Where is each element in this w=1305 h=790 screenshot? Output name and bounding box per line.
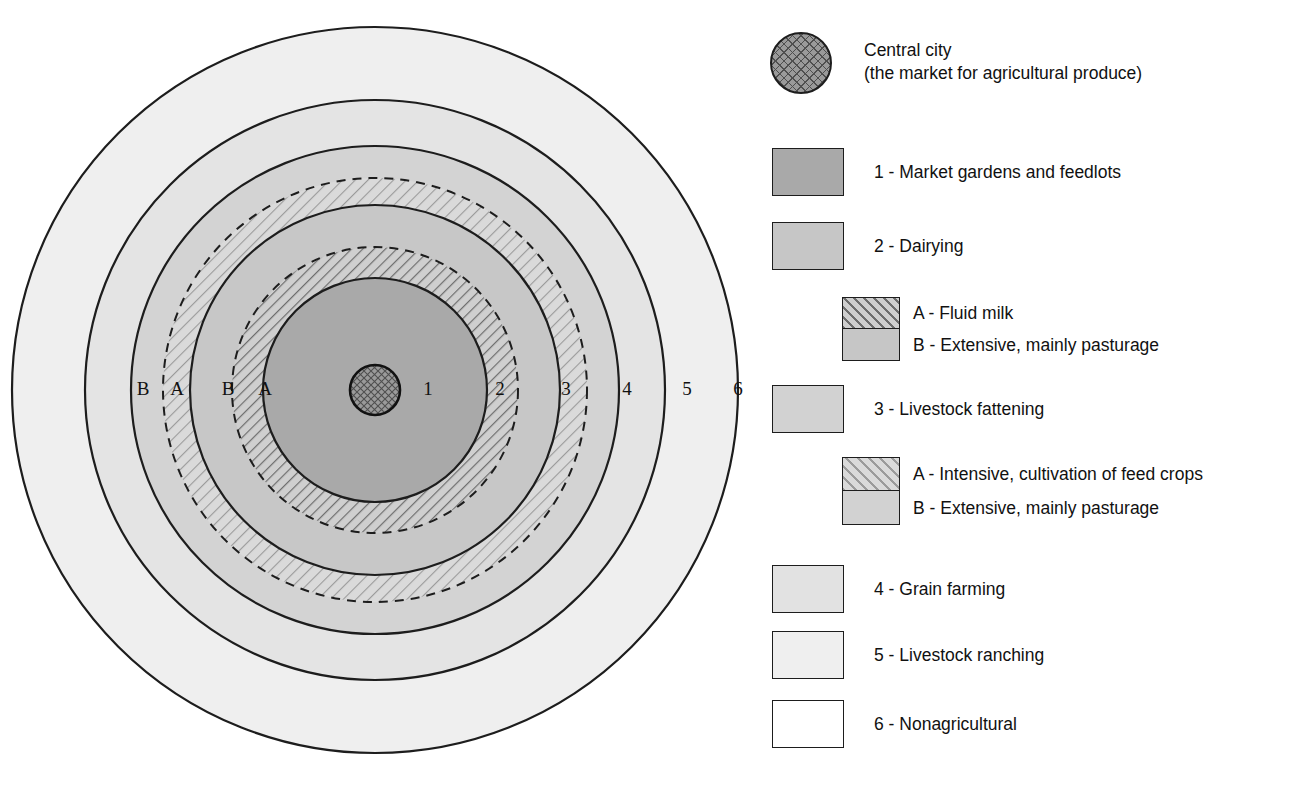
ring-label-zone3-b: B: [137, 378, 150, 399]
legend-item-zone-1: 1 - Market gardens and feedlots: [772, 148, 1121, 196]
legend-panel: Central city (the market for agricultura…: [762, 0, 1305, 790]
sub-legend-zone-3: A - Intensive, cultivation of feed crops…: [842, 457, 1203, 525]
ring-label-4: 4: [622, 378, 632, 399]
ring-label-zone2-a: A: [258, 378, 272, 399]
sub-legend-labels-zone-3: A - Intensive, cultivation of feed crops…: [913, 457, 1203, 525]
rings-svg: 1 2 3 4 5 6 A B A B: [0, 0, 745, 790]
sub-legend-swatch-zone-2-b: [843, 329, 899, 360]
legend-label-zone-1: 1 - Market gardens and feedlots: [874, 161, 1121, 184]
ring-label-1: 1: [423, 378, 433, 399]
ring-label-6: 6: [733, 378, 743, 399]
ring-label-2: 2: [495, 378, 505, 399]
legend-item-zone-6: 6 - Nonagricultural: [772, 700, 1017, 748]
legend-swatch-zone-4: [772, 565, 844, 613]
legend-item-zone-4: 4 - Grain farming: [772, 565, 1005, 613]
legend-swatch-zone-6: [772, 700, 844, 748]
sub-legend-zone-2: A - Fluid milk B - Extensive, mainly pas…: [842, 297, 1159, 361]
sub-legend-swatch-zone-3-a: [843, 458, 899, 491]
diagram-page: 1 2 3 4 5 6 A B A B Central city (the ma…: [0, 0, 1305, 790]
sub-legend-swatch-stack-zone-2: [842, 297, 900, 361]
legend-label-zone-2: 2 - Dairying: [874, 235, 963, 258]
sub-legend-swatch-stack-zone-3: [842, 457, 900, 525]
legend-swatch-zone-1: [772, 148, 844, 196]
sub-legend-labels-zone-2: A - Fluid milk B - Extensive, mainly pas…: [913, 297, 1159, 361]
von-thunen-ring-diagram: 1 2 3 4 5 6 A B A B: [0, 0, 745, 790]
legend-item-central-city: Central city (the market for agricultura…: [770, 32, 1142, 94]
legend-swatch-zone-3: [772, 385, 844, 433]
legend-label-zone-3: 3 - Livestock fattening: [874, 398, 1044, 421]
legend-swatch-central-city: [770, 32, 832, 94]
legend-label-central-city: Central city (the market for agricultura…: [864, 39, 1142, 85]
sub-legend-label-zone-3-b: B - Extensive, mainly pasturage: [913, 493, 1203, 524]
legend-swatch-zone-2: [772, 222, 844, 270]
legend-item-zone-3: 3 - Livestock fattening: [772, 385, 1044, 433]
legend-item-zone-5: 5 - Livestock ranching: [772, 631, 1044, 679]
legend-label-zone-5: 5 - Livestock ranching: [874, 644, 1044, 667]
ring-label-5: 5: [682, 378, 692, 399]
ring-label-3: 3: [561, 378, 571, 399]
sub-legend-label-zone-2-a: A - Fluid milk: [913, 298, 1159, 329]
sub-legend-swatch-zone-2-a: [843, 298, 899, 329]
legend-swatch-zone-5: [772, 631, 844, 679]
sub-legend-swatch-zone-3-b: [843, 491, 899, 524]
ring-label-zone2-b: B: [222, 378, 235, 399]
legend-item-zone-2: 2 - Dairying: [772, 222, 963, 270]
legend-label-zone-4: 4 - Grain farming: [874, 578, 1005, 601]
legend-label-zone-6: 6 - Nonagricultural: [874, 713, 1017, 736]
sub-legend-label-zone-2-b: B - Extensive, mainly pasturage: [913, 330, 1159, 361]
central-city-circle: [350, 365, 400, 415]
sub-legend-label-zone-3-a: A - Intensive, cultivation of feed crops: [913, 459, 1203, 490]
ring-label-zone3-a: A: [170, 378, 184, 399]
